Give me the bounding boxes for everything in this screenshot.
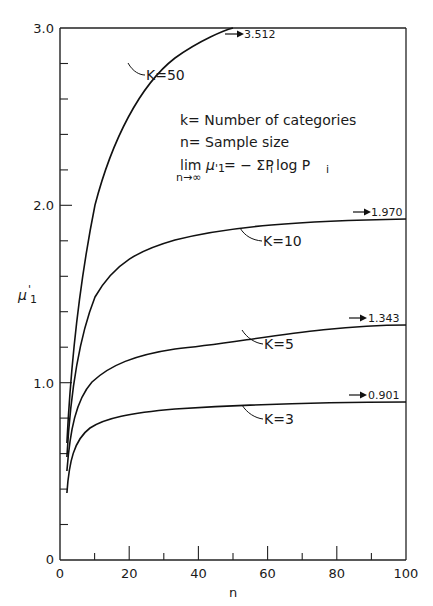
asymptote-k10: 1.970: [353, 206, 403, 219]
leader-k5: [242, 330, 263, 344]
svg-text:1.970: 1.970: [371, 206, 403, 219]
legend-line-1: k= Number of categories: [180, 112, 356, 128]
curve-k50: [67, 28, 233, 443]
x-tick-label-60: 60: [259, 566, 276, 581]
x-axis-label: n: [229, 585, 237, 600]
x-tick-label-20: 20: [121, 566, 138, 581]
asymptote-k3: 0.901: [349, 389, 400, 402]
svg-text:i: i: [270, 163, 273, 176]
y-axis-label: μ ' 1: [17, 283, 37, 306]
legend-line-2: n= Sample size: [180, 134, 289, 150]
asymptote-k50: 3.512: [225, 28, 276, 41]
leader-k50: [128, 63, 145, 75]
x-tick-label-40: 40: [190, 566, 207, 581]
x-tick-label-100: 100: [394, 566, 419, 581]
curve-k3: [67, 402, 406, 493]
svg-text:n→∞: n→∞: [176, 171, 201, 184]
y-tick-label-1: 1.0: [33, 376, 54, 391]
svg-text:μ: μ: [205, 157, 215, 173]
chart: 3.0 2.0 1.0 0 0 20 40 60 80 100 n μ ' 1 …: [0, 0, 433, 606]
legend: k= Number of categories n= Sample size l…: [176, 112, 356, 184]
arrow-right-icon: [364, 209, 371, 216]
svg-text:log P: log P: [276, 157, 310, 173]
x-ticks: [95, 546, 372, 560]
svg-text:i: i: [326, 163, 329, 176]
y-tick-label-0: 0: [46, 552, 54, 567]
svg-text:= − ΣP: = − ΣP: [224, 157, 274, 173]
label-k10: K=10: [263, 233, 302, 249]
x-tick-label-80: 80: [329, 566, 346, 581]
y-ticks: [60, 64, 72, 525]
leader-k10: [240, 228, 262, 241]
y-tick-label-3: 3.0: [33, 21, 54, 36]
arrow-right-icon: [360, 392, 367, 399]
x-tick-label-0: 0: [56, 566, 64, 581]
plot-frame: [60, 28, 406, 560]
svg-text:0.901: 0.901: [368, 389, 400, 402]
curve-k10: [67, 219, 406, 457]
label-k5: K=5: [264, 336, 294, 352]
label-k3: K=3: [264, 411, 294, 427]
asymptote-k5: 1.343: [349, 312, 400, 325]
arrow-right-icon: [360, 315, 367, 322]
arrow-right-icon: [237, 31, 244, 38]
curve-k5: [67, 325, 406, 471]
y-tick-label-2: 2.0: [33, 198, 54, 213]
svg-text:1.343: 1.343: [368, 312, 400, 325]
legend-line-3: lim n→∞ μ '1 = − ΣP i log P i: [176, 157, 329, 184]
leader-k3: [242, 405, 263, 419]
label-k50: K=50: [146, 67, 185, 83]
svg-text:3.512: 3.512: [244, 28, 276, 41]
svg-text:1: 1: [30, 293, 37, 306]
svg-text:μ: μ: [17, 287, 27, 303]
